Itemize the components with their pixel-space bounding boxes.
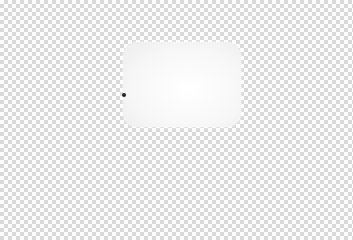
rounded-rectangle-shape — [123, 42, 241, 127]
cursor-dot-icon — [122, 93, 126, 97]
